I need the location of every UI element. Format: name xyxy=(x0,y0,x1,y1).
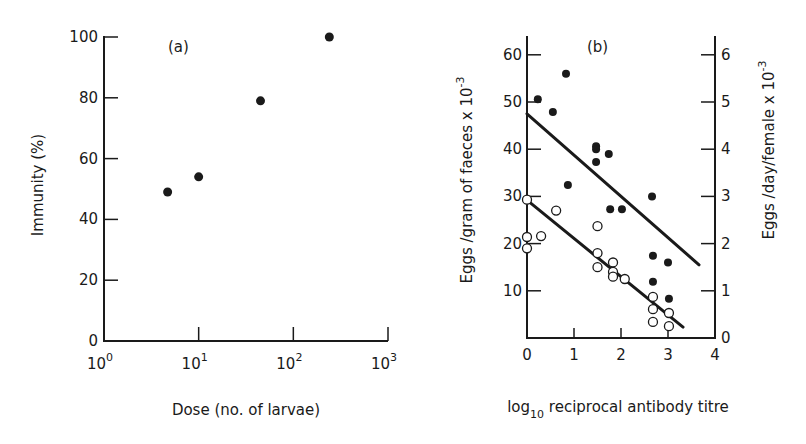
y-tick-label: 40 xyxy=(79,210,98,228)
filled-data-point xyxy=(648,192,656,200)
panel-a-y-axis-title: Immunity (%) xyxy=(29,134,47,236)
open-data-point xyxy=(523,232,532,241)
x-tick-label: 4 xyxy=(710,346,720,364)
right-y-tick-label: 5 xyxy=(721,93,731,111)
open-data-point xyxy=(523,195,532,204)
regression-line xyxy=(527,114,699,265)
x-tick-label: 100 xyxy=(87,351,113,373)
y-tick-label: 60 xyxy=(79,150,98,168)
open-data-point xyxy=(523,244,532,253)
data-point xyxy=(256,96,265,105)
panel-b-left-y-axis-title: Eggs /gram of faeces x 10-3 xyxy=(454,76,476,283)
filled-data-point xyxy=(562,70,570,78)
panel-a-data-points xyxy=(163,33,334,197)
x-tick-label: 101 xyxy=(182,351,208,373)
figure: 020406080100100101102103 (a) Dose (no. o… xyxy=(0,0,806,444)
open-data-point xyxy=(537,232,546,241)
panel-b-label: (b) xyxy=(587,38,608,56)
x-tick-label: 102 xyxy=(276,351,302,373)
x-tick-label: 3 xyxy=(663,346,673,364)
filled-data-point xyxy=(605,150,613,158)
data-point xyxy=(325,33,334,42)
panel-a-ticks: 020406080100100101102103 xyxy=(69,28,397,373)
filled-data-point xyxy=(606,205,614,213)
filled-data-point xyxy=(665,295,673,303)
panel-b-eggs-vs-antibody-titre: 102030405060012345601234 (b) log10 recip… xyxy=(454,36,778,421)
filled-data-point xyxy=(592,158,600,166)
open-data-point xyxy=(552,206,561,215)
filled-data-point xyxy=(564,181,572,189)
x-tick-label: 0 xyxy=(522,346,532,364)
right-y-tick-label: 4 xyxy=(721,140,731,158)
right-y-tick-label: 1 xyxy=(721,282,731,300)
left-y-tick-label: 60 xyxy=(503,46,522,64)
filled-data-point xyxy=(664,258,672,266)
y-tick-label: 80 xyxy=(79,89,98,107)
y-tick-label: 100 xyxy=(69,28,98,46)
panel-a-label: (a) xyxy=(168,38,189,56)
filled-data-point xyxy=(649,278,657,286)
right-y-tick-label: 0 xyxy=(721,329,731,347)
filled-data-point xyxy=(549,108,557,116)
open-data-point xyxy=(593,263,602,272)
open-data-point xyxy=(648,317,657,326)
open-data-point xyxy=(593,222,602,231)
left-y-tick-label: 50 xyxy=(503,93,522,111)
open-data-point xyxy=(664,322,673,331)
filled-data-point xyxy=(534,95,542,103)
right-y-tick-label: 6 xyxy=(721,46,731,64)
panel-b-ticks: 102030405060012345601234 xyxy=(503,46,731,364)
x-tick-label: 2 xyxy=(616,346,626,364)
open-data-point xyxy=(648,305,657,314)
panel-b-x-axis-title: log10 reciprocal antibody titre xyxy=(507,398,729,421)
filled-data-point xyxy=(592,145,600,153)
panel-a-x-axis-title: Dose (no. of larvae) xyxy=(172,401,320,419)
open-data-point xyxy=(648,292,657,301)
data-point xyxy=(194,172,203,181)
filled-data-point xyxy=(649,252,657,260)
panel-a-axes xyxy=(103,36,388,341)
x-tick-label: 1 xyxy=(569,346,579,364)
right-y-tick-label: 2 xyxy=(721,235,731,253)
left-y-tick-label: 10 xyxy=(503,282,522,300)
left-y-tick-label: 20 xyxy=(503,235,522,253)
left-y-tick-label: 40 xyxy=(503,140,522,158)
y-tick-label: 20 xyxy=(79,271,98,289)
open-data-point xyxy=(620,275,629,284)
open-data-point xyxy=(593,249,602,258)
x-tick-label: 103 xyxy=(371,351,397,373)
panel-b-axes xyxy=(526,36,716,338)
regression-line xyxy=(527,200,683,327)
right-y-tick-label: 3 xyxy=(721,187,731,205)
panel-b-data-points xyxy=(523,70,674,331)
open-data-point xyxy=(664,308,673,317)
y-tick-label: 0 xyxy=(88,332,98,350)
filled-data-point xyxy=(618,205,626,213)
data-point xyxy=(163,188,172,197)
panel-b-regression-lines xyxy=(527,114,699,327)
open-data-point xyxy=(609,258,618,267)
left-y-tick-label: 30 xyxy=(503,187,522,205)
panel-a-immunity-vs-dose: 020406080100100101102103 (a) Dose (no. o… xyxy=(29,28,397,419)
panel-b-right-y-axis-title: Eggs /day/female x 10-3 xyxy=(756,61,778,240)
open-data-point xyxy=(609,272,618,281)
